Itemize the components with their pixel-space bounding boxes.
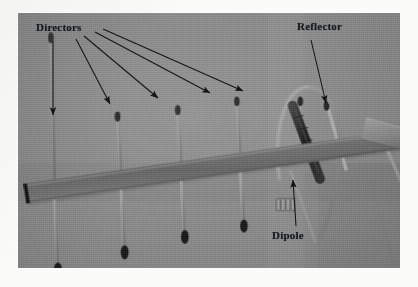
annotation-label-reflector: Reflector	[297, 20, 342, 32]
directors-arrow-5	[103, 29, 243, 91]
annotation-label-dipole: Dipole	[272, 229, 304, 241]
annotation-arrows-layer	[0, 0, 418, 287]
directors-arrows	[53, 29, 243, 115]
directors-arrow-4	[95, 32, 210, 93]
annotation-label-directors: Directors	[36, 21, 82, 33]
directors-arrow-2	[76, 39, 110, 104]
reflector-arrow	[311, 40, 326, 103]
figure-root: Directors Reflector Dipole	[0, 0, 418, 287]
dipole-arrow-group	[293, 180, 296, 226]
dipole-arrow	[293, 180, 296, 226]
reflector-arrow-group	[311, 40, 326, 103]
